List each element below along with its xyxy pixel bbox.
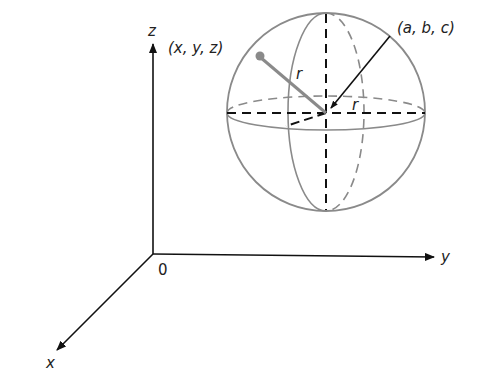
depth-dashed-axis bbox=[286, 113, 326, 126]
center-label: (a, b, c) bbox=[397, 19, 455, 37]
sphere-diagram: z y x 0 (x, y, z) (a, b, c) r r bbox=[0, 0, 479, 383]
y-axis bbox=[153, 254, 434, 257]
x-axis-label: x bbox=[45, 354, 55, 372]
point-label: (x, y, z) bbox=[168, 39, 223, 57]
meridian-back bbox=[326, 13, 364, 211]
x-axis bbox=[57, 254, 153, 350]
point-dot bbox=[256, 52, 265, 61]
sphere bbox=[227, 13, 425, 211]
y-axis-label: y bbox=[440, 248, 451, 266]
radius-label-2: r bbox=[352, 96, 359, 114]
radius-label-1: r bbox=[296, 65, 303, 83]
origin-label: 0 bbox=[158, 261, 168, 279]
z-axis-label: z bbox=[147, 22, 157, 40]
